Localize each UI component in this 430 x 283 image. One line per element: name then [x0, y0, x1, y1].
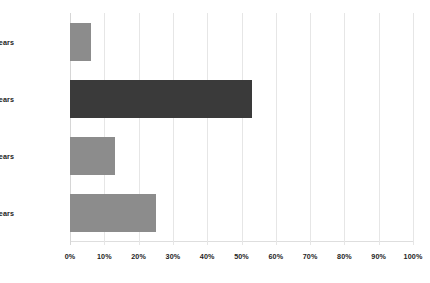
gridline-70: [310, 13, 311, 245]
category-label: 23-26 years: [0, 151, 14, 160]
bar-chart: 15-18 years19-22 years23-26 years27-30 y…: [0, 0, 430, 283]
gridline-60: [276, 13, 277, 245]
bar: [70, 23, 91, 61]
gridline-40: [207, 13, 208, 245]
gridline-100: [413, 13, 414, 245]
bar: [70, 80, 252, 118]
gridline-90: [379, 13, 380, 245]
category-label: 27-30 years: [0, 208, 14, 217]
bar: [70, 194, 156, 232]
gridline-50: [242, 13, 243, 245]
gridline-80: [344, 13, 345, 245]
category-axis-labels: 15-18 years19-22 years23-26 years27-30 y…: [0, 13, 70, 241]
x-axis-tick-labels: 0%10%20%30%40%50%60%70%80%90%100%: [70, 252, 413, 266]
category-label: 19-22 years: [0, 94, 14, 103]
bar: [70, 137, 115, 175]
category-label: 15-18 years: [0, 37, 14, 46]
plot-area: [70, 13, 413, 241]
x-tick-label: 100%: [393, 252, 430, 261]
gridline-30: [173, 13, 174, 245]
